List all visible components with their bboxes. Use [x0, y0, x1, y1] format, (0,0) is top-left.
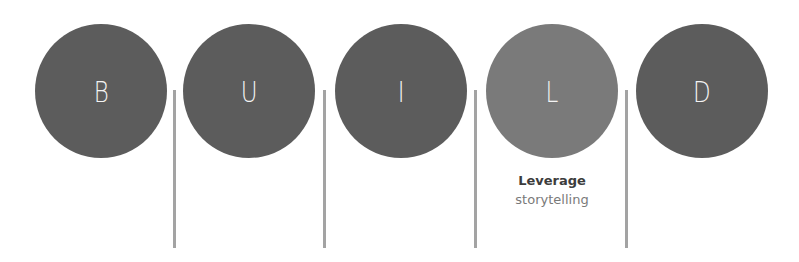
step-letter: B	[93, 79, 108, 107]
step-letter: D	[693, 79, 711, 107]
step-letter: U	[241, 79, 258, 107]
step-letter: L	[546, 79, 559, 107]
step-letter: I	[398, 79, 405, 107]
separator-line	[323, 90, 326, 248]
separator-line	[173, 90, 176, 248]
caption-subtitle: storytelling	[482, 190, 622, 209]
step-circle-d: D	[636, 24, 768, 158]
caption-title: Leverage	[482, 171, 622, 190]
separator-line	[474, 90, 477, 248]
step-circle-b: B	[35, 24, 167, 158]
step-circle-u: U	[183, 24, 315, 158]
step-circle-i: I	[335, 24, 467, 158]
step-circle-l: L	[486, 24, 618, 158]
separator-line	[625, 90, 628, 248]
step-caption-l: Leverage storytelling	[482, 171, 622, 209]
